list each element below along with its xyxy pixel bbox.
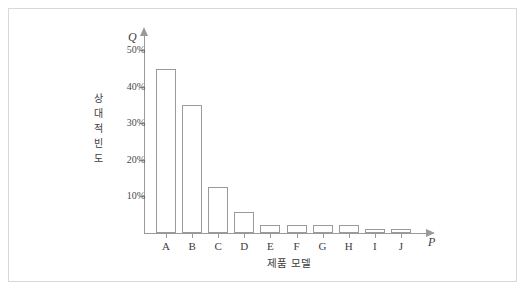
y-axis-tick-label-wrap: 40% [95, 87, 145, 88]
y-axis-title-char-1: 대 [90, 106, 106, 121]
bar-e [260, 225, 280, 233]
y-axis-tick-label-wrap: 50% [95, 50, 145, 51]
bar-f [287, 225, 307, 233]
y-axis-line [144, 35, 145, 233]
y-axis-tick-label: 50% [111, 45, 145, 55]
x-axis-tick-label-c: C [206, 240, 230, 252]
x-axis-title: 제품 모델 [224, 255, 354, 270]
x-axis-tick [166, 234, 167, 238]
x-axis-tick [375, 234, 376, 238]
y-axis-tick-label: 10% [111, 191, 145, 201]
x-axis-tick [218, 234, 219, 238]
y-axis-title-char-4: 도 [90, 151, 106, 166]
y-axis-variable-label: Q [128, 30, 137, 45]
y-axis-title-char-3: 빈 [90, 136, 106, 151]
x-axis-tick-label-j: J [389, 240, 413, 252]
x-axis-tick [323, 234, 324, 238]
x-axis-tick-label-b: B [180, 240, 204, 252]
x-axis-tick-label-d: D [232, 240, 256, 252]
x-axis-tick-label-i: I [363, 240, 387, 252]
x-axis-tick-label-h: H [337, 240, 361, 252]
y-axis-tick-label-wrap: 10% [95, 196, 145, 197]
x-axis-tick-label-e: E [258, 240, 282, 252]
x-axis-tick [349, 234, 350, 238]
x-axis-line [144, 233, 427, 234]
y-axis-title-char-0: 상 [90, 91, 106, 106]
bar-c [208, 187, 228, 233]
x-axis-tick-label-f: F [285, 240, 309, 252]
bar-a [156, 69, 176, 233]
y-axis-tick-label: 30% [111, 118, 145, 128]
bar-i [365, 229, 385, 233]
bar-g [313, 225, 333, 233]
x-axis-tick [192, 234, 193, 238]
x-axis-tick-label-a: A [154, 240, 178, 252]
bar-h [339, 225, 359, 233]
bar-d [234, 212, 254, 233]
x-axis-tick [270, 234, 271, 238]
x-axis-tick [297, 234, 298, 238]
y-axis-title-char-2: 적 [90, 121, 106, 136]
bar-b [182, 105, 202, 233]
bar-chart-plot: Q P 10%20%30%40%50% ABCDEFGHIJ 상대적빈도 제품 … [9, 9, 518, 283]
figure-frame: Q P 10%20%30%40%50% ABCDEFGHIJ 상대적빈도 제품 … [8, 8, 517, 282]
y-axis-arrow-icon [140, 27, 148, 36]
x-axis-tick-label-g: G [311, 240, 335, 252]
x-axis-tick [401, 234, 402, 238]
x-axis-variable-label: P [428, 235, 435, 250]
y-axis-tick-label: 20% [111, 155, 145, 165]
x-axis-tick [244, 234, 245, 238]
bar-j [391, 229, 411, 233]
y-axis-title: 상대적빈도 [90, 91, 106, 166]
y-axis-tick-label: 40% [111, 82, 145, 92]
